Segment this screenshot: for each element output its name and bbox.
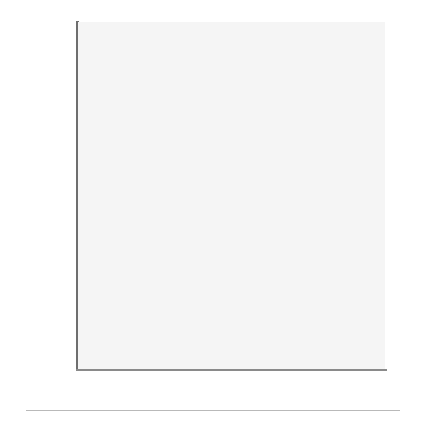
chart-figure	[0, 0, 426, 421]
y-axis-title	[0, 0, 56, 380]
x-axis-line	[76, 369, 387, 371]
plot-area	[78, 22, 385, 369]
x-axis-tick-labels	[0, 372, 426, 386]
area-chart-svg	[78, 22, 385, 369]
footer-divider	[26, 410, 400, 411]
y-axis-tick-labels	[50, 0, 74, 421]
